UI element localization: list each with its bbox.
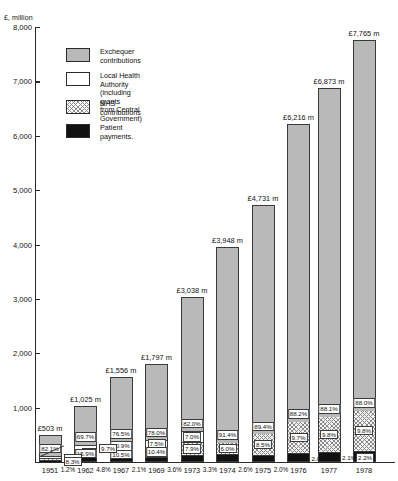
segment-percent-label: 69.7% [75,432,97,441]
segment-nhs-1974: 6.0% [217,443,238,456]
y-axis-tick-label: 8,000 [0,23,32,32]
segment-percent-label: 91.4% [217,430,239,439]
bar-total-label-1962: £1,025 m [70,395,101,404]
segment-percent-label: 88.1% [318,404,340,413]
leader-label-lha-1962: 9.7% [99,444,117,453]
y-axis-unit-label: £, million [4,14,33,21]
segment-exchequer-1973: 82.0% [182,298,203,432]
axis-patient-percent: 4.8% [96,466,111,473]
segment-nhs-1978: 9.8% [354,411,375,452]
y-axis-tick-label: 4,000 [0,241,32,250]
segment-nhs-1975: 8.5% [253,434,274,456]
axis-patient-percent: 1.2% [61,466,76,473]
segment-patient-1975 [253,456,274,461]
segment-patient-1969 [146,458,167,461]
segment-exchequer-1975: 89.4% [253,206,274,434]
segment-patient-1976 [288,454,309,461]
chart-root: £, million 8,0007,0006,0005,0004,0003,00… [0,0,398,481]
leader-label-nhs-1951: 8.3% [64,457,82,466]
axis-patient-percent: 3.6% [167,466,182,473]
x-axis-year-1976: 1976 [290,466,306,475]
segment-exchequer-1978: 88.0% [354,41,375,411]
segment-percent-label: 9.7% [289,433,307,442]
segment-patient-1973 [182,456,203,461]
segment-lha-1973: 7.0% [182,431,203,442]
x-axis-year-1962: 1962 [77,466,93,475]
bar-total-label-1977: £6,873 m [314,77,345,86]
segment-percent-label: 88.2% [288,409,310,418]
x-axis-year-1967: 1967 [113,466,129,475]
segment-exchequer-1969: 78.0% [146,365,167,440]
segment-nhs-1976: 9.7% [288,422,309,455]
segment-percent-label: 88.0% [353,398,375,407]
y-axis-tick-label: 5,000 [0,186,32,195]
segment-percent-label: 6.0% [218,444,236,453]
bar-total-label-1967: £1,556 m [106,366,137,375]
axis-patient-percent: 2.6% [238,466,253,473]
segment-nhs-1969: 10.4% [146,448,167,458]
x-axis-year-1951: 1951 [42,466,58,475]
y-axis-tick-label: 6,000 [0,132,32,141]
segment-percent-label: 76.5% [110,429,132,438]
x-axis-year-1973: 1973 [184,466,200,475]
x-axis-year-1977: 1977 [321,466,337,475]
y-axis-tick-label: 2,000 [0,349,32,358]
x-axis-year-1975: 1975 [255,466,271,475]
y-axis-tick-label: 3,000 [0,295,32,304]
axis-patient-percent: 3.3% [203,466,218,473]
leader-line-lha-1962 [82,448,96,449]
axis-patient-percent: 2.0% [274,466,289,473]
segment-nhs-1973: 7.9% [182,443,203,456]
segment-exchequer-1951: 82.1% [40,436,61,457]
segment-lha-1969: 7.5% [146,440,167,447]
segment-percent-label: 82.0% [181,419,203,428]
y-axis-tick-label: 1,000 [0,404,32,413]
segment-exchequer-1976: 88.2% [288,125,309,422]
bar-total-label-1969: £1,797 m [141,353,172,362]
segment-percent-label: 8.5% [254,440,272,449]
bar-1969: 78.0%7.5%10.4% [145,364,168,462]
segment-patient-1967 [111,459,132,461]
segment-percent-label: 78.0% [146,428,168,437]
segment-exchequer-1962: 69.7% [75,407,96,444]
x-axis-year-1969: 1969 [148,466,164,475]
segment-nhs-1977: 9.8% [319,417,340,453]
segment-patient-1974 [217,455,238,461]
bar-1977: 88.1%9.8% [318,88,341,462]
segment-percent-label: 7.9% [183,444,201,453]
x-axis-year-1974: 1974 [219,466,235,475]
segment-percent-label: 9.8% [320,430,338,439]
x-axis-year-1978: 1978 [356,466,372,475]
bar-1973: 82.0%7.0%7.9% [181,297,204,462]
inline-patient-percent: 2.0% [312,455,326,462]
bar-total-label-1973: £3,038 m [177,286,208,295]
plot-area: 82.1%£503 m69.7%15.9%£1,025 m76.5%10.9%1… [35,27,395,462]
axis-patient-percent: 2.1% [132,466,147,473]
segment-percent-label: 89.4% [252,422,274,431]
segment-percent-label: 7.0% [183,432,201,441]
bar-1978: 88.0%9.8% [353,40,376,462]
segment-exchequer-1974: 91.4% [217,248,238,442]
segment-exchequer-1977: 88.1% [319,89,340,417]
segment-exchequer-1967: 76.5% [111,378,132,441]
segment-percent-label: 10.4% [146,447,168,456]
y-axis-tick-label: 7,000 [0,77,32,86]
bar-total-label-1951: £503 m [38,424,63,433]
inline-patient-percent: 2.1% [342,454,356,461]
bar-1974: 91.4%6.0% [216,247,239,462]
bar-total-label-1975: £4,731 m [248,194,279,203]
x-axis-line [35,462,395,463]
bar-total-label-1974: £3,948 m [212,236,243,245]
bar-1975: 89.4%8.5% [252,205,275,462]
bar-total-label-1976: £6,216 m [283,113,314,122]
bar-total-label-1978: £7,765 m [349,29,380,38]
inline-patient-percent: 2.2% [356,453,374,462]
segment-percent-label: 9.8% [355,426,373,435]
bar-1976: 88.2%9.7% [287,124,310,462]
